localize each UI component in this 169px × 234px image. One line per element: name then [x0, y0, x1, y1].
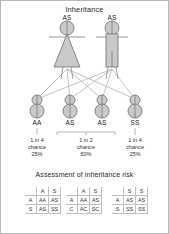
row-header: A — [25, 196, 37, 205]
punnett-cell: SS — [49, 205, 61, 214]
col-header: A — [37, 187, 49, 196]
punnett-cell: AS — [37, 205, 49, 214]
parent-male — [96, 21, 128, 79]
col-header: S — [136, 187, 148, 196]
child-1 — [30, 95, 44, 118]
row-header: S — [112, 205, 124, 214]
risk-title: Assessment of inheritance risk — [1, 171, 168, 178]
punnett-square-2: A S A AA AS C AC SC — [66, 187, 102, 214]
inheritance-lines — [37, 69, 135, 99]
child-label-1: AA — [24, 119, 50, 126]
punnett-cell: SS — [136, 205, 148, 214]
corner — [112, 187, 124, 196]
col-header: S — [90, 187, 102, 196]
child-label-4: SS — [122, 119, 148, 126]
col-header: A — [78, 187, 90, 196]
row-header: S — [25, 205, 37, 214]
outcome-2-word: chance — [66, 144, 106, 151]
col-header: S — [49, 187, 61, 196]
punnett-square-1: A S A AA AS S AS SS — [25, 187, 61, 214]
punnett-cell: AS — [90, 196, 102, 205]
outcome-3: 1 in 4 chance 25% — [115, 137, 155, 158]
diagram-frame: Inheritance — [0, 0, 169, 234]
corner — [66, 187, 78, 196]
child-2 — [63, 95, 77, 118]
child-4 — [128, 95, 142, 118]
outcome-2-percent: 50% — [66, 151, 106, 158]
outcome-3-word: chance — [115, 144, 155, 151]
col-header: S — [124, 187, 136, 196]
outcome-1-percent: 25% — [17, 151, 57, 158]
outcome-3-percent: 25% — [115, 151, 155, 158]
punnett-cell: AA — [78, 196, 90, 205]
punnett-cell: AS — [136, 196, 148, 205]
corner — [25, 187, 37, 196]
punnett-cell: AS — [49, 196, 61, 205]
row-header: A — [66, 196, 78, 205]
punnett-cell: AA — [37, 196, 49, 205]
punnett-cell: AC — [78, 205, 90, 214]
outcome-brackets — [37, 128, 135, 135]
child-label-2: AS — [57, 119, 83, 126]
outcome-2-ratio: 1 in 2 — [66, 137, 106, 144]
child-label-3: AS — [89, 119, 115, 126]
child-3 — [95, 95, 109, 118]
outcome-1-ratio: 1 in 4 — [17, 137, 57, 144]
row-header: A — [112, 196, 124, 205]
outcome-1-word: chance — [17, 144, 57, 151]
outcome-1: 1 in 4 chance 25% — [17, 137, 57, 158]
outcome-3-ratio: 1 in 4 — [115, 137, 155, 144]
punnett-cell: SC — [90, 205, 102, 214]
punnett-cell: SS — [124, 205, 136, 214]
punnett-cell: AS — [124, 196, 136, 205]
parent-label-male: AS — [99, 14, 125, 21]
punnett-square-3: S S A AS AS S SS SS — [112, 187, 148, 214]
parent-label-female: AS — [54, 14, 80, 21]
outcome-2: 1 in 2 chance 50% — [66, 137, 106, 158]
row-header: C — [66, 205, 78, 214]
